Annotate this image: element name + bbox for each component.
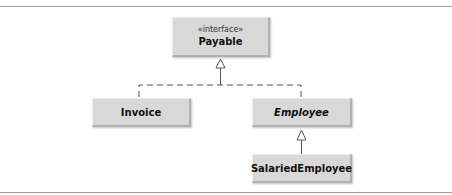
class-payable: «interface» Payable <box>172 17 270 57</box>
class-name-payable: Payable <box>198 35 242 48</box>
realization-arrowhead <box>216 59 225 68</box>
class-name-salaried-employee: SalariedEmployee <box>251 162 352 175</box>
generalization-arrowhead <box>297 130 306 140</box>
realization-lines <box>139 85 301 97</box>
class-name-employee: Employee <box>274 106 329 119</box>
stereotype-label: «interface» <box>198 25 243 35</box>
class-invoice: Invoice <box>92 98 191 127</box>
class-employee: Employee <box>252 98 352 127</box>
class-salaried-employee: SalariedEmployee <box>252 154 352 183</box>
class-name-invoice: Invoice <box>121 106 161 119</box>
